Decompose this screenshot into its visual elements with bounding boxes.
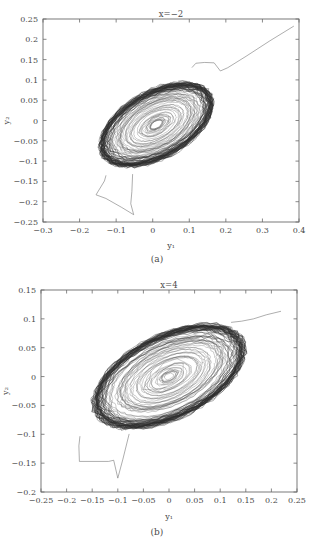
x-tick-label: −0.2 <box>57 496 76 505</box>
attractor-orbit <box>102 330 235 425</box>
x-tick-label: 0.3 <box>256 226 269 235</box>
y-tick-label: −0.05 <box>13 137 38 146</box>
axes-frame <box>43 19 299 222</box>
plot-b-svg: x=4−0.25−0.2−0.15−0.1−0.0500.050.10.150.… <box>0 273 314 546</box>
x-tick-label: 0.05 <box>186 496 204 505</box>
transient-trajectory <box>79 434 129 478</box>
trajectory-group <box>79 311 281 478</box>
y-tick-label: −0.1 <box>17 430 36 439</box>
x-tick-label: 0.4 <box>293 226 306 235</box>
plot-a-svg: x=−2−0.3−0.2−0.100.10.20.30.40.250.20.15… <box>0 0 314 273</box>
y-tick-label: 0.2 <box>25 35 38 44</box>
y-tick-label: −0.15 <box>13 177 38 186</box>
x-tick-label: 0.2 <box>265 496 278 505</box>
panel-caption: (a) <box>151 254 163 264</box>
x-tick-label: −0.3 <box>33 226 52 235</box>
axes-frame <box>41 290 297 492</box>
y-tick-label: 0.15 <box>20 56 38 65</box>
y-tick-label: −0.1 <box>19 157 38 166</box>
y-tick-label: −0.25 <box>13 218 38 227</box>
y-tick-label: −0.15 <box>11 459 36 468</box>
y-tick-label: 0.1 <box>23 315 36 324</box>
x-tick-label: −0.1 <box>108 496 127 505</box>
x-axis-label: y₁ <box>166 241 175 250</box>
x-tick-label: −0.2 <box>70 226 89 235</box>
x-tick-label: 0.1 <box>214 496 227 505</box>
x-tick-label: −0.1 <box>106 226 125 235</box>
x-tick-label: 0 <box>166 496 171 505</box>
transient-trajectory <box>231 311 280 322</box>
transient-trajectory <box>96 175 134 215</box>
y-tick-label: −0.2 <box>19 198 38 207</box>
y-tick-label: 0.25 <box>20 15 38 24</box>
trajectory-group <box>96 26 293 214</box>
y-tick-label: 0.05 <box>18 344 36 353</box>
plot-title: x=4 <box>160 280 177 290</box>
panel-figure-b: x=4−0.25−0.2−0.15−0.1−0.0500.050.10.150.… <box>0 273 314 546</box>
x-tick-label: 0.25 <box>288 496 306 505</box>
panel-figure-a: x=−2−0.3−0.2−0.100.10.20.30.40.250.20.15… <box>0 0 314 273</box>
y-tick-label: −0.2 <box>17 488 36 497</box>
y-tick-label: 0.05 <box>20 96 38 105</box>
attractor-orbit <box>101 329 238 426</box>
y-tick-label: −0.05 <box>11 401 36 410</box>
y-tick-label: 0.1 <box>25 76 38 85</box>
y-tick-label: 0.15 <box>18 286 36 295</box>
panel-caption: (b) <box>151 527 164 537</box>
x-tick-label: −0.15 <box>80 496 105 505</box>
attractor-orbit <box>130 107 181 144</box>
y-tick-label: 0 <box>33 117 38 126</box>
plot-title: x=−2 <box>159 9 183 19</box>
y-tick-label: 0 <box>31 373 36 382</box>
transient-trajectory <box>192 26 293 71</box>
x-tick-label: 0.1 <box>183 226 196 235</box>
x-axis-label: y₁ <box>164 512 173 521</box>
x-tick-label: −0.05 <box>131 496 156 505</box>
x-tick-label: 0.2 <box>219 226 232 235</box>
y-axis-label: y₂ <box>1 387 10 396</box>
attractor-orbit <box>100 335 234 422</box>
y-axis-label: y₂ <box>2 117 11 126</box>
attractor-orbit <box>109 338 225 419</box>
x-tick-label: −0.25 <box>29 496 54 505</box>
attractor-inner-orbit <box>164 373 173 380</box>
x-tick-label: 0.15 <box>237 496 255 505</box>
x-tick-label: 0 <box>150 226 155 235</box>
